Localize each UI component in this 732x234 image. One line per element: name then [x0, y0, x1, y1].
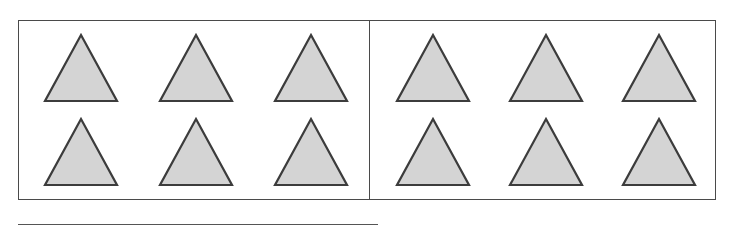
triangle-icon: [620, 116, 698, 188]
left-row-2: [19, 110, 369, 194]
triangle-icon: [157, 32, 235, 104]
shape-cell: [489, 32, 602, 104]
shape-cell: [254, 32, 369, 104]
triangle-icon: [507, 116, 585, 188]
triangle-icon: [157, 116, 235, 188]
shape-cell: [602, 116, 715, 188]
triangle-icon: [507, 32, 585, 104]
shape-cell: [489, 116, 602, 188]
triangle-icon: [394, 116, 472, 188]
right-row-2: [370, 110, 715, 194]
right-panel: [370, 21, 715, 199]
shape-cell: [138, 116, 253, 188]
triangle-icon: [620, 32, 698, 104]
left-panel-rows: [19, 21, 369, 199]
triangle-icon: [42, 32, 120, 104]
triangle-icon: [42, 116, 120, 188]
right-panel-rows: [370, 21, 715, 199]
triangle-icon: [272, 116, 350, 188]
triangle-icon: [394, 32, 472, 104]
shape-cell: [23, 32, 138, 104]
left-row-1: [19, 26, 369, 110]
grouping-box: [18, 20, 716, 200]
shape-cell: [602, 32, 715, 104]
shape-cell: [376, 32, 489, 104]
shape-cell: [23, 116, 138, 188]
figure-canvas: [0, 0, 732, 234]
left-panel: [19, 21, 370, 199]
bottom-rule: [18, 224, 378, 225]
shape-cell: [376, 116, 489, 188]
triangle-icon: [272, 32, 350, 104]
shape-cell: [138, 32, 253, 104]
right-row-1: [370, 26, 715, 110]
shape-cell: [254, 116, 369, 188]
